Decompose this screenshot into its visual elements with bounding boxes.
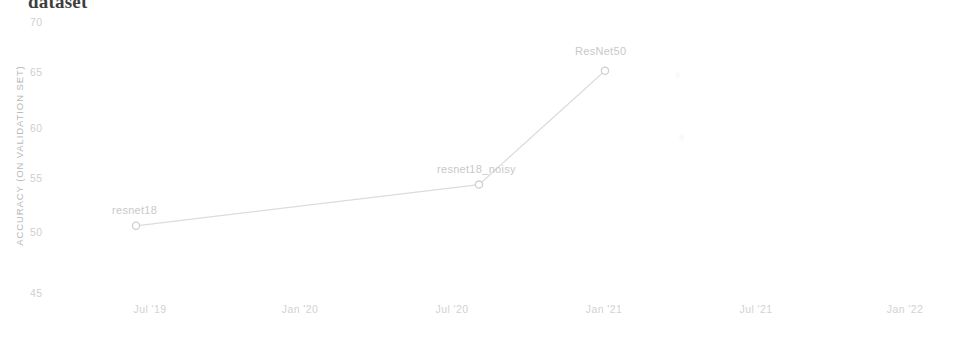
series-markers (132, 67, 608, 229)
scan-artifact (675, 72, 680, 78)
line-chart: ACCURACY (ON VALIDATION SET) 70 65 60 55… (0, 0, 957, 349)
y-axis-title: ACCURACY (ON VALIDATION SET) (14, 51, 25, 261)
point-label: resnet18_noisy (437, 163, 516, 175)
y-axis-tick: 60 (30, 122, 60, 134)
y-axis-tick: 50 (30, 226, 60, 238)
series-line (136, 71, 605, 226)
y-axis-tick: 70 (30, 16, 60, 28)
x-axis-tick: Jul '19 (95, 303, 205, 315)
scan-artifact (679, 134, 684, 141)
x-axis-tick: Jul '20 (397, 303, 507, 315)
x-axis-tick: Jan '22 (850, 303, 957, 315)
x-axis-tick: Jan '21 (549, 303, 659, 315)
data-point-marker (601, 67, 608, 74)
x-axis-tick: Jul '21 (701, 303, 811, 315)
data-point-marker (475, 181, 482, 188)
data-point-marker (132, 222, 139, 229)
y-axis-tick: 55 (30, 172, 60, 184)
x-axis-tick: Jan '20 (245, 303, 355, 315)
point-label: ResNet50 (575, 45, 626, 57)
y-axis-tick: 45 (30, 287, 60, 299)
point-label: resnet18 (112, 204, 157, 216)
y-axis-tick: 65 (30, 66, 60, 78)
